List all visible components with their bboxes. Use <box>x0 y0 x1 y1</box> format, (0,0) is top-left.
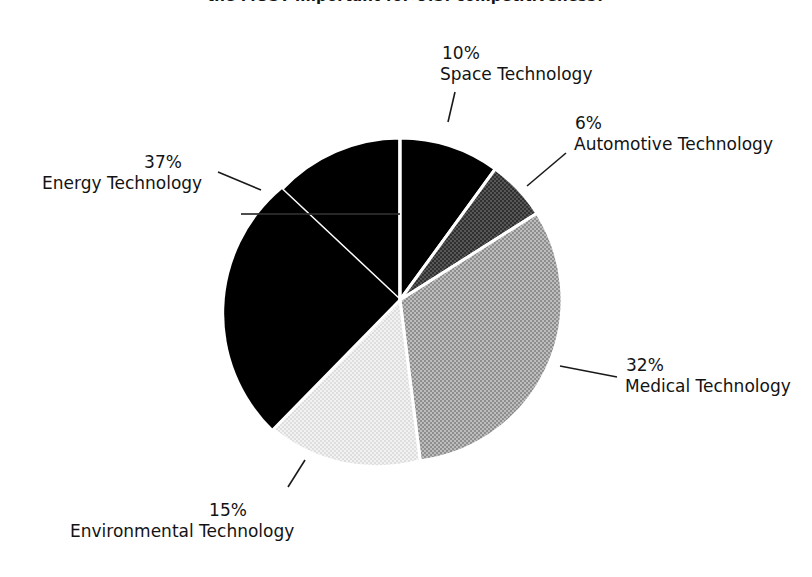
callout-medical-label: Medical Technology <box>625 376 791 397</box>
callout-environmental-label: Environmental Technology <box>70 521 318 542</box>
callout-environmental-percent: 15% <box>70 500 318 521</box>
pie-chart-svg <box>0 0 812 577</box>
callout-energy-percent: 37% <box>42 152 228 173</box>
callout-environmental-technology: 15% Environmental Technology <box>70 500 318 542</box>
callout-automotive-label: Automotive Technology <box>574 134 773 155</box>
callout-space-percent: 10% <box>440 43 592 64</box>
callout-automotive-technology: 6% Automotive Technology <box>574 113 773 155</box>
callout-medical-percent: 32% <box>625 355 791 376</box>
callout-automotive-percent: 6% <box>574 113 773 134</box>
callout-energy-technology: 37% Energy Technology <box>42 152 228 194</box>
pie-chart-figure: the MOST important for U.S. competitiven… <box>0 0 812 577</box>
callout-energy-label: Energy Technology <box>42 173 228 194</box>
callout-space-technology: 10% Space Technology <box>440 43 592 85</box>
leader-line-space <box>448 92 455 122</box>
leader-line-medical <box>560 366 617 377</box>
leader-line-automotive <box>527 153 566 186</box>
callout-space-label: Space Technology <box>440 64 592 85</box>
callout-medical-technology: 32% Medical Technology <box>625 355 791 397</box>
leader-line-environmental <box>288 460 305 487</box>
